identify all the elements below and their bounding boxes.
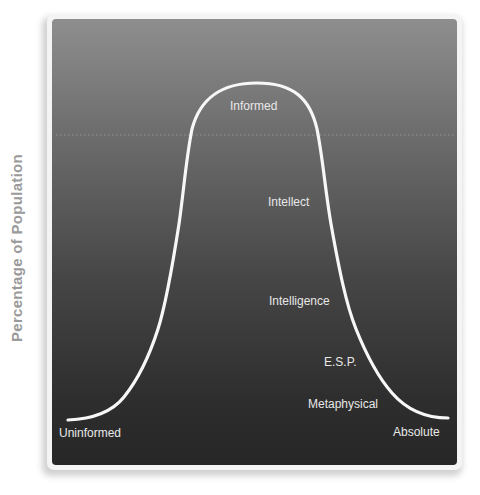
- bell-curve-plot: [52, 19, 457, 465]
- bell-curve: [68, 83, 448, 420]
- label-esp: E.S.P.: [324, 356, 356, 368]
- label-uninformed: Uninformed: [59, 427, 121, 439]
- label-informed: Informed: [230, 100, 277, 112]
- chart-area: Informed Intellect Intelligence E.S.P. M…: [52, 19, 457, 465]
- label-intelligence: Intelligence: [269, 295, 330, 307]
- label-metaphysical: Metaphysical: [308, 398, 378, 410]
- label-intellect: Intellect: [268, 196, 309, 208]
- label-absolute: Absolute: [393, 426, 440, 438]
- y-axis-label: Percentage of Population: [8, 154, 25, 342]
- chart-panel: Informed Intellect Intelligence E.S.P. M…: [47, 14, 462, 470]
- diagram-stage: Percentage of Population Informed Intell…: [0, 0, 480, 495]
